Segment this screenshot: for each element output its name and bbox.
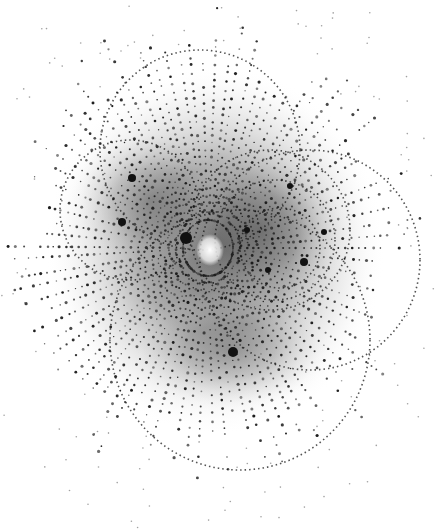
- beamstop-center: [196, 234, 224, 266]
- diffraction-pattern-image: [0, 0, 436, 530]
- diffraction-pattern: [0, 0, 436, 530]
